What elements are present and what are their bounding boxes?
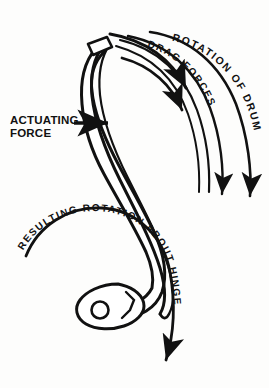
brake-shoe-diagram: ACTUATING FORCE ROTATION OF DRUM DRAG FO… (0, 0, 269, 388)
diagram-canvas: ACTUATING FORCE ROTATION OF DRUM DRAG FO… (0, 0, 269, 388)
actuating-force-label-line2: FORCE (10, 127, 51, 139)
actuating-force-label-line1: ACTUATING (10, 114, 79, 126)
hinge-bore (92, 302, 109, 319)
